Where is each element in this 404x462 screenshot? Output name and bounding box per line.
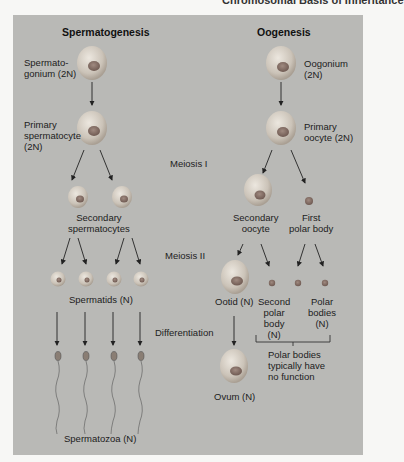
spermatids-label: Spermatids (N)	[69, 294, 133, 305]
spermatozoa	[55, 352, 144, 435]
differentiation-label: Differentiation	[155, 327, 213, 338]
ootid-cell	[221, 260, 249, 294]
spermatogonium-label: Spermato- gonium (2N)	[24, 57, 76, 79]
polar-bodies-label: Polar bodies (N)	[308, 296, 336, 329]
meiosis-ii-label: Meiosis II	[165, 250, 205, 261]
spermatid-cells	[51, 272, 149, 287]
polar-bodies	[269, 280, 328, 286]
polar-bodies-note: Polar bodies typically have no function	[268, 349, 325, 382]
oogonium-label: Oogonium (2N)	[304, 58, 348, 80]
meiosis-i-label: Meiosis I	[170, 158, 207, 169]
secondary-spermatocytes-label: Secondary spermatocytes	[68, 212, 130, 234]
ootid-label: Ootid (N)	[215, 296, 254, 307]
primary-oocyte-label: Primary oocyte (2N)	[304, 121, 353, 143]
spermatogenesis-title: Spermatogenesis	[62, 26, 150, 38]
first-polar-body-label: First polar body	[289, 212, 333, 234]
ovum-label: Ovum (N)	[214, 391, 255, 402]
primary-oocyte-cell	[266, 111, 296, 145]
oogenesis-title: Oogenesis	[257, 26, 311, 38]
primary-spermatocyte-label: Primary spermatocyte (2N)	[24, 119, 81, 152]
spermatogonium-cell	[77, 46, 107, 80]
secondary-spermatocyte-cells	[68, 186, 132, 208]
primary-spermatocyte-cell	[77, 111, 107, 145]
oogonium-cell	[266, 46, 296, 80]
ovum-cell	[220, 349, 248, 383]
secondary-oocyte-label: Secondary oocyte	[233, 212, 278, 234]
spermatozoa-label: Spermatozoa (N)	[64, 433, 136, 444]
second-polar-body-label: Second polar body (N)	[258, 296, 290, 340]
first-polar-body	[305, 197, 313, 205]
secondary-oocyte-cell	[244, 174, 272, 206]
